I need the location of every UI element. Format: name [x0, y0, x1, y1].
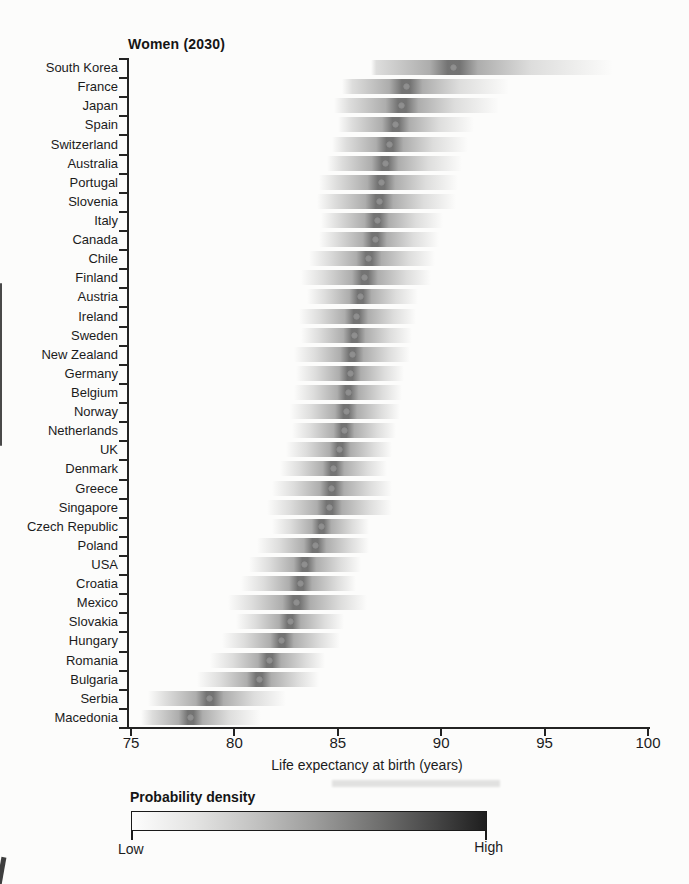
country-label: Chile	[0, 251, 118, 266]
y-axis-tick	[119, 479, 127, 481]
median-dot	[353, 313, 360, 320]
x-tick-label: 80	[214, 734, 254, 751]
median-dot	[374, 217, 381, 224]
y-axis-tick	[119, 651, 127, 653]
density-band	[319, 175, 458, 190]
median-dot	[206, 695, 213, 702]
density-band	[327, 156, 461, 171]
x-tick-label: 85	[318, 734, 358, 751]
country-label: Hungary	[0, 633, 118, 648]
country-label: Poland	[0, 538, 118, 553]
median-dot	[256, 676, 263, 683]
median-dot	[376, 198, 383, 205]
density-band	[342, 79, 510, 94]
median-dot	[326, 504, 333, 511]
scan-artifact	[0, 283, 2, 446]
median-dot	[403, 83, 410, 90]
country-label: Germany	[0, 366, 118, 381]
x-axis-line	[127, 727, 650, 729]
country-label: Australia	[0, 156, 118, 171]
x-tick-label: 90	[421, 734, 461, 751]
y-axis-tick	[119, 58, 127, 60]
y-axis-tick	[119, 689, 127, 691]
country-label: Canada	[0, 232, 118, 247]
x-axis-title: Life expectancy at birth (years)	[227, 757, 507, 773]
country-label: Czech Republic	[0, 519, 118, 534]
country-label: Spain	[0, 117, 118, 132]
country-label: Macedonia	[0, 710, 118, 725]
country-label: UK	[0, 442, 118, 457]
x-tick-label: 100	[628, 734, 668, 751]
scanned-figure: Women (2030) South KoreaFranceJapanSpain…	[0, 0, 689, 884]
median-dot	[382, 160, 389, 167]
median-dot	[386, 141, 393, 148]
y-axis-tick	[119, 364, 127, 366]
density-band	[319, 232, 439, 247]
legend-low-label: Low	[118, 841, 144, 857]
y-axis-tick	[119, 134, 127, 136]
density-band	[317, 194, 456, 209]
y-axis-tick	[119, 402, 127, 404]
median-dot	[318, 523, 325, 530]
y-axis-tick	[119, 77, 127, 79]
y-axis-tick	[119, 440, 127, 442]
median-dot	[345, 389, 352, 396]
y-axis-tick	[119, 268, 127, 270]
y-axis-tick	[119, 498, 127, 500]
country-label: Belgium	[0, 385, 118, 400]
median-dot	[347, 370, 354, 377]
country-label: Bulgaria	[0, 672, 118, 687]
country-label: Croatia	[0, 576, 118, 591]
country-label: Italy	[0, 213, 118, 228]
legend-high-label: High	[458, 839, 503, 855]
y-axis-tick	[119, 708, 127, 710]
y-axis-line	[127, 58, 129, 729]
median-dot	[349, 351, 356, 358]
density-band	[321, 213, 443, 228]
y-axis-tick	[119, 326, 127, 328]
y-axis-tick	[119, 306, 127, 308]
density-band	[334, 98, 499, 113]
country-label: Denmark	[0, 461, 118, 476]
scan-artifact	[332, 780, 500, 787]
country-label: Serbia	[0, 691, 118, 706]
y-axis-tick	[119, 727, 127, 729]
y-axis-tick	[119, 115, 127, 117]
x-tick-label: 95	[525, 734, 565, 751]
y-axis-tick	[119, 211, 127, 213]
country-label: New Zealand	[0, 347, 118, 362]
country-label: Norway	[0, 404, 118, 419]
country-label: Sweden	[0, 328, 118, 343]
country-label: Mexico	[0, 595, 118, 610]
country-label: Netherlands	[0, 423, 118, 438]
country-label: South Korea	[0, 60, 118, 75]
y-axis-tick	[119, 555, 127, 557]
density-strip-plot: South KoreaFranceJapanSpainSwitzerlandAu…	[0, 0, 689, 884]
country-label: Finland	[0, 270, 118, 285]
y-axis-tick	[119, 631, 127, 633]
y-axis-tick	[119, 383, 127, 385]
legend-title: Probability density	[130, 789, 255, 805]
country-label: Japan	[0, 98, 118, 113]
density-band	[338, 117, 474, 132]
country-label: France	[0, 79, 118, 94]
country-label: Singapore	[0, 500, 118, 515]
legend-gradient-bar	[131, 811, 487, 831]
median-dot	[266, 657, 273, 664]
y-axis-tick	[119, 96, 127, 98]
y-axis-tick	[119, 154, 127, 156]
y-axis-tick	[119, 249, 127, 251]
country-label: Austria	[0, 289, 118, 304]
legend-left-tick	[131, 831, 133, 840]
median-dot	[351, 332, 358, 339]
country-label: USA	[0, 557, 118, 572]
country-label: Slovakia	[0, 614, 118, 629]
country-label: Portugal	[0, 175, 118, 190]
median-dot	[343, 408, 350, 415]
median-dot	[378, 179, 385, 186]
country-label: Switzerland	[0, 137, 118, 152]
density-band	[371, 60, 613, 75]
median-dot	[312, 542, 319, 549]
median-dot	[372, 236, 379, 243]
y-axis-tick	[119, 574, 127, 576]
